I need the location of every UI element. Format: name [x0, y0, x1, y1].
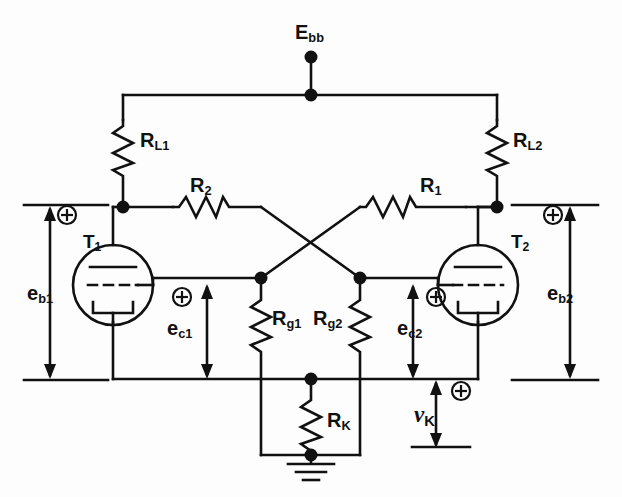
eb2-arrowhead-down: [564, 364, 576, 379]
label-Ebb: Ebb: [295, 22, 324, 42]
label-RK: RK: [327, 410, 351, 430]
label-RL2: RL2: [513, 130, 542, 150]
label-eb2: eb2: [547, 283, 573, 303]
label-ec1: ec1: [167, 318, 192, 338]
label-R2: R2: [190, 175, 212, 195]
node-plate-right: [491, 201, 504, 214]
node-cathode-res: [305, 373, 318, 386]
label-ec2: ec2: [397, 318, 422, 338]
resistor-Rg2: [350, 278, 370, 455]
label-Rg2: Rg2: [313, 308, 342, 328]
node-supply-rail: [305, 89, 318, 102]
label-T1: T1: [83, 232, 101, 251]
resistor-R2: [173, 197, 261, 217]
eb1-arrowhead-down: [44, 364, 56, 379]
cathode-electrode-T1: [93, 302, 133, 313]
node-supply: [305, 51, 318, 64]
vk-arrowhead-up: [430, 380, 442, 395]
label-R1: R1: [420, 175, 442, 195]
eb2-arrowhead-up: [564, 206, 576, 221]
resistor-RK: [301, 379, 321, 455]
eb1-arrowhead-up: [44, 206, 56, 221]
label-T2: T2: [511, 232, 529, 251]
cathode-electrode-T2: [458, 302, 498, 313]
resistor-Rg1: [251, 278, 271, 455]
ec1-arrowhead-up: [201, 284, 213, 299]
ec2-arrowhead-down: [407, 364, 419, 379]
node-grid-left: [255, 272, 268, 285]
label-RL1: RL1: [140, 130, 169, 150]
label-eb1: eb1: [27, 283, 53, 303]
node-grid-right: [354, 272, 367, 285]
resistor-RL2: [487, 120, 507, 207]
resistor-RL1: [113, 120, 133, 207]
circuit-diagram-canvas: Ebb RL1 RL2 R2 R1 T1 T2 Rg1 Rg2 RK eb1 e…: [0, 0, 622, 497]
label-Rg1: Rg1: [272, 308, 301, 328]
resistor-R1: [360, 197, 466, 217]
ec1-arrowhead-down: [201, 364, 213, 379]
node-plate-left: [117, 201, 130, 214]
node-ground: [305, 449, 318, 462]
label-vK: vK: [414, 403, 435, 426]
ec2-arrowhead-up: [407, 284, 419, 299]
